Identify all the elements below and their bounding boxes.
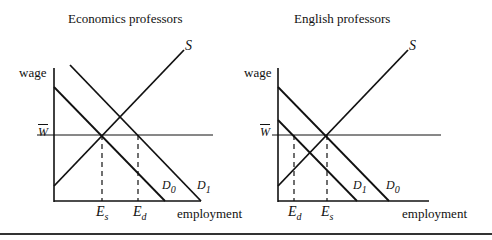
left-wage-floor-label: W [38, 125, 48, 140]
left-demand-d0 [54, 87, 165, 201]
right-es-label: Es [321, 204, 333, 220]
left-demand-d1 [70, 65, 201, 201]
right-wage-floor-label: W [260, 125, 270, 140]
right-demand-d0 [278, 87, 389, 201]
left-ed-label: Ed [133, 204, 147, 220]
right-supply-s [278, 50, 408, 186]
right-demand-d1 [278, 120, 357, 201]
left-y-axis-label: wage [19, 65, 46, 81]
labor-market-diagrams [0, 0, 492, 240]
right-demand-d0-label: D0 [386, 178, 400, 193]
right-supply-label: S [409, 38, 416, 54]
left-x-axis-label: employment [177, 206, 242, 222]
bottom-rule-divider [0, 233, 492, 235]
right-y-axis-label: wage [244, 65, 271, 81]
right-x-axis-label: employment [402, 206, 467, 222]
left-chart-lines [37, 50, 213, 202]
left-supply-s [54, 50, 184, 186]
right-demand-d1-label: D1 [353, 178, 367, 193]
left-supply-label: S [185, 38, 192, 54]
left-demand-d0-label: D0 [162, 178, 176, 193]
right-ed-label: Ed [288, 204, 302, 220]
left-es-label: Es [96, 204, 108, 220]
left-demand-d1-label: D1 [197, 178, 211, 193]
